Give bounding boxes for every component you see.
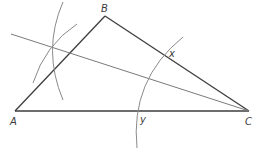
arc-from-x [53,2,64,100]
angle-bisector-line [11,34,249,111]
triangle-construction-diagram: B A C x y [0,0,253,149]
vertex-label-c: C [245,116,252,127]
side-bc [105,16,249,111]
point-label-x: x [168,48,175,59]
vertex-label-a: A [9,116,17,127]
side-ab [15,16,105,111]
arc-centered-c [136,37,183,148]
vertex-label-b: B [101,3,108,14]
point-label-y: y [139,114,147,125]
